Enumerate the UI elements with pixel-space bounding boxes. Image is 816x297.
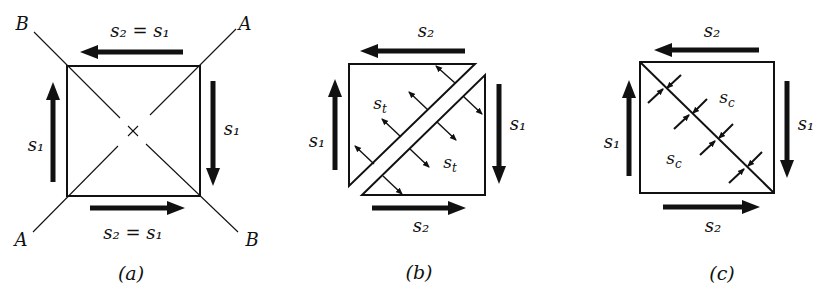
panel-b: s₂ s₂ s₁ s₁ st st (b) bbox=[309, 20, 526, 283]
panel-b-left-label: s₁ bbox=[309, 130, 325, 151]
panel-b-caption: (b) bbox=[406, 261, 433, 283]
panel-a-bottom-label: s₂ = s₁ bbox=[103, 222, 162, 243]
panel-b-region-label-lower: st bbox=[443, 152, 457, 175]
panel-a-caption: (a) bbox=[118, 262, 144, 284]
panel-b-region-label-upper: st bbox=[373, 93, 387, 116]
corner-label-bottom-left: A bbox=[13, 229, 28, 250]
panel-a-left-label: s₁ bbox=[28, 134, 44, 155]
panel-c-bottom-label: s₂ bbox=[705, 215, 721, 236]
panel-a-top-label: s₂ = s₁ bbox=[110, 20, 169, 41]
panel-c-right-label: s₁ bbox=[798, 113, 814, 134]
stress-state-diagram: s₂ = s₁ s₂ = s₁ s₁ s₁ B A A B (a) bbox=[0, 0, 816, 297]
panel-a-diagonal-b bbox=[34, 32, 238, 232]
corner-label-bottom-right: B bbox=[244, 229, 258, 250]
panel-c-region-label-upper: sc bbox=[719, 87, 735, 110]
panel-c-region-label-lower: sc bbox=[666, 148, 682, 171]
panel-b-tension-arrows-lower bbox=[383, 96, 482, 194]
corner-label-top-right: A bbox=[237, 13, 252, 34]
panel-b-right-label: s₁ bbox=[510, 113, 526, 134]
panel-b-top-label: s₂ bbox=[418, 20, 434, 41]
panel-c-compression-arrows bbox=[648, 75, 762, 183]
panel-a: s₂ = s₁ s₂ = s₁ s₁ s₁ B A A B (a) bbox=[13, 13, 259, 284]
panel-b-tension-arrows-upper bbox=[355, 66, 455, 164]
panel-c-left-label: s₁ bbox=[604, 131, 620, 152]
center-x-icon bbox=[128, 126, 138, 136]
panel-c-top-label: s₂ bbox=[704, 20, 720, 41]
panel-a-right-label: s₁ bbox=[224, 118, 240, 139]
panel-b-bottom-label: s₂ bbox=[413, 215, 429, 236]
panel-c: s₂ s₂ s₁ s₁ sc sc (c) bbox=[604, 20, 814, 284]
panel-c-caption: (c) bbox=[709, 262, 734, 284]
corner-label-top-left: B bbox=[14, 13, 28, 34]
panel-c-diagonal bbox=[640, 62, 774, 193]
